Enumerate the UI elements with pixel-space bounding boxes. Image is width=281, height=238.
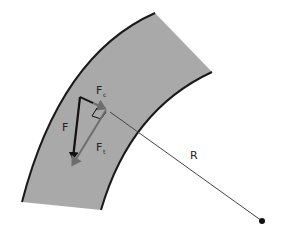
center-point	[259, 218, 265, 224]
label-ft: F	[96, 141, 102, 154]
curved-track-band	[22, 13, 212, 210]
radius-line	[110, 112, 262, 221]
label-fc: F	[96, 84, 102, 97]
diagram-canvas: F F c F t R	[0, 0, 281, 238]
label-f: F	[62, 121, 68, 134]
label-r: R	[190, 149, 198, 162]
label-fc-sub: c	[103, 91, 106, 98]
